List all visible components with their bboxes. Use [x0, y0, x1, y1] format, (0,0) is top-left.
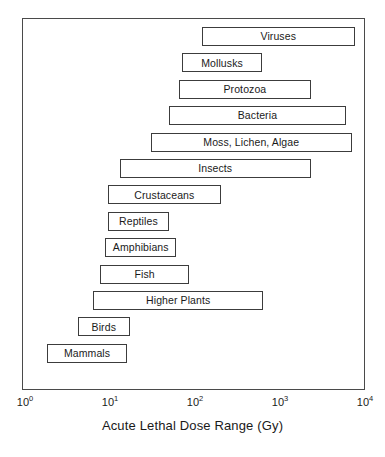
range-bar: Reptiles: [108, 212, 169, 231]
range-bar-label: Higher Plants: [146, 295, 210, 306]
range-bar: Insects: [120, 159, 311, 178]
range-bar-label: Bacteria: [238, 110, 277, 121]
range-bar-label: Fish: [135, 269, 155, 280]
range-bar: Mollusks: [182, 53, 263, 72]
range-bar-label: Viruses: [260, 31, 296, 42]
range-bar: Moss, Lichen, Algae: [151, 133, 352, 152]
x-tick-label-exponent: 3: [284, 394, 288, 403]
x-tick-label-exponent: 0: [29, 394, 33, 403]
x-tick-label: 100: [17, 396, 33, 408]
range-bar: Protozoa: [179, 80, 311, 99]
x-tick-label-exponent: 4: [369, 394, 373, 403]
x-tick-label: 104: [357, 396, 373, 408]
x-tick-label-base: 10: [357, 396, 369, 408]
range-bar-label: Moss, Lichen, Algae: [203, 137, 299, 148]
range-bar-label: Insects: [198, 163, 232, 174]
x-tick-label: 101: [102, 396, 118, 408]
x-tick-label-exponent: 1: [114, 394, 118, 403]
range-bar-label: Mollusks: [201, 58, 243, 69]
x-tick-label-base: 10: [187, 396, 199, 408]
x-tick-label: 103: [272, 396, 288, 408]
range-bar: Bacteria: [169, 106, 347, 125]
radiation-lethal-dose-chart: VirusesMollusksProtozoaBacteriaMoss, Lic…: [0, 0, 385, 457]
range-bar: Amphibians: [105, 238, 176, 257]
range-bar-label: Mammals: [64, 348, 110, 359]
range-bar: Viruses: [202, 27, 355, 46]
x-axis-title: Acute Lethal Dose Range (Gy): [0, 418, 385, 433]
range-bar: Birds: [78, 317, 130, 336]
x-tick-label-base: 10: [17, 396, 29, 408]
range-bar-label: Birds: [92, 322, 116, 333]
range-bar-label: Crustaceans: [134, 190, 194, 201]
range-bar: Higher Plants: [93, 291, 264, 310]
range-bar-label: Protozoa: [223, 84, 266, 95]
x-tick-label: 102: [187, 396, 203, 408]
x-tick-label-base: 10: [272, 396, 284, 408]
range-bar-label: Reptiles: [119, 216, 158, 227]
range-bar-label: Amphibians: [113, 242, 169, 253]
range-bar: Crustaceans: [108, 185, 221, 204]
x-tick-label-exponent: 2: [199, 394, 203, 403]
range-bar: Fish: [100, 265, 189, 284]
x-tick-label-base: 10: [102, 396, 114, 408]
range-bar: Mammals: [47, 344, 128, 363]
